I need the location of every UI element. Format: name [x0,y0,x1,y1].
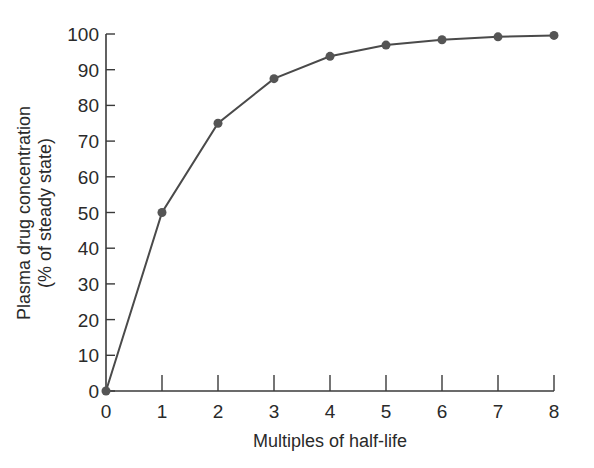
y-tick-label: 20 [78,310,99,331]
data-point [438,35,447,44]
y-tick-label: 0 [88,381,99,402]
x-tick-label: 5 [381,401,392,422]
y-tick-label: 50 [78,203,99,224]
data-point [102,387,111,396]
data-point [158,208,167,217]
x-axis: 012345678 [101,375,560,422]
data-point [270,74,279,83]
x-tick-label: 2 [213,401,224,422]
data-point [214,119,223,128]
data-point [326,52,335,61]
chart: 0102030405060708090100 012345678 Multipl… [0,0,594,468]
x-tick-label: 7 [493,401,504,422]
y-tick-label: 60 [78,167,99,188]
y-axis-title-line-1: Plasma drug concentration [14,106,34,320]
y-axis: 0102030405060708090100 [67,24,115,402]
y-tick-label: 40 [78,238,99,259]
x-tick-label: 1 [157,401,168,422]
series-line [106,35,554,391]
data-point [494,32,503,41]
y-axis-title: Plasma drug concentration (% of steady s… [14,106,55,320]
data-point [382,41,391,50]
y-tick-label: 10 [78,345,99,366]
x-axis-title: Multiples of half-life [253,431,407,451]
x-tick-label: 0 [101,401,112,422]
y-tick-label: 100 [67,24,99,45]
x-tick-label: 6 [437,401,448,422]
x-tick-label: 8 [549,401,560,422]
x-tick-label: 3 [269,401,280,422]
y-axis-title-line-2: (% of steady state) [35,138,55,288]
y-tick-label: 90 [78,60,99,81]
data-point [550,31,559,40]
y-tick-label: 80 [78,95,99,116]
data-series [102,31,559,396]
y-tick-label: 70 [78,131,99,152]
x-tick-label: 4 [325,401,336,422]
y-tick-label: 30 [78,274,99,295]
